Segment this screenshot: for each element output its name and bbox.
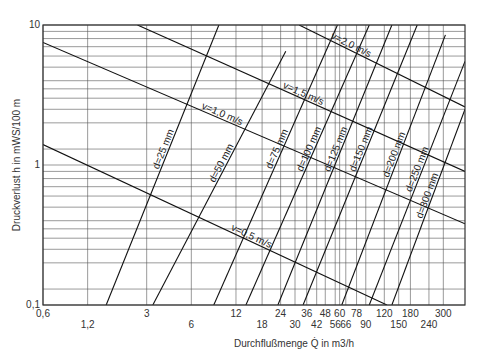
y-tick-label: 1 — [34, 159, 40, 170]
x-tick-label: 36 — [301, 308, 313, 319]
x-tick-label: 240 — [421, 319, 438, 330]
x-tick-label: 24 — [275, 308, 287, 319]
x-tick-label: 78 — [351, 308, 363, 319]
x-tick-label: 1,2 — [81, 319, 95, 330]
series-label: v=1,0 m/s — [200, 100, 244, 127]
x-tick-label: 150 — [390, 319, 407, 330]
grid-lines — [43, 25, 465, 305]
x-tick-label: 0,6 — [36, 308, 50, 319]
x-tick-label: 300 — [435, 308, 452, 319]
x-tick-label: 3 — [144, 308, 150, 319]
velocity-line — [299, 25, 465, 107]
pipe-pressure-loss-chart: 0,1110 0,631224364860781201803001,261830… — [0, 0, 490, 355]
x-tick-label: 42 — [311, 319, 323, 330]
x-tick-label: 120 — [376, 308, 393, 319]
x-tick-label: 30 — [289, 319, 301, 330]
y-tick-label: 10 — [29, 19, 41, 30]
x-axis-label: Durchflußmenge Q̇ in m3/h — [234, 337, 354, 349]
x-tick-label: 90 — [360, 319, 372, 330]
x-tick-label: 12 — [230, 308, 242, 319]
y-axis-ticks: 0,1110 — [26, 19, 40, 310]
x-tick-label: 60 — [334, 308, 346, 319]
x-tick-label: 66 — [340, 319, 352, 330]
x-tick-label: 18 — [257, 319, 269, 330]
y-axis-label: Druckverlust h in mWS/100 m — [11, 99, 22, 231]
x-tick-label: 48 — [320, 308, 332, 319]
x-tick-label: 180 — [402, 308, 419, 319]
series-label: d=50 mm — [206, 142, 235, 184]
series-label: v=2,0 m/s — [329, 30, 373, 59]
x-tick-label: 6 — [189, 319, 195, 330]
x-axis-ticks: 0,631224364860781201803001,2618304256669… — [36, 308, 452, 330]
